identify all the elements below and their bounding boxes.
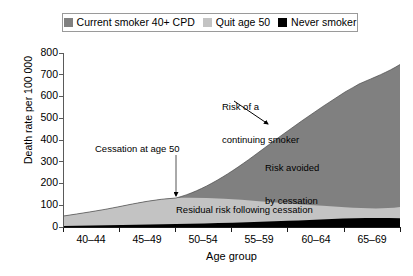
legend-label-current-smoker: Current smoker 40+ CPD [77,17,195,28]
legend-item-current-smoker: Current smoker 40+ CPD [64,17,195,28]
annotation-avoided-line-1: Risk avoided [265,162,319,173]
annotation-residual-risk-following-cessation: Residual risk following cessation [176,204,313,215]
y-axis-title: Death rate per 100 000 [22,30,34,190]
x-axis-label-65-69: 65–69 [344,233,400,245]
x-tick-6 [400,228,401,232]
x-axis-label-40-44: 40–44 [63,233,119,245]
x-axis-label-50-54: 50–54 [175,233,231,245]
y-axis-label-0: 0 [4,221,58,232]
x-axis-label-55-59: 55–59 [231,233,287,245]
y-axis-label-100: 100 [4,199,58,210]
x-axis-label-60-64: 60–64 [288,233,344,245]
x-tick-3 [231,228,232,232]
x-axis-title: Age group [63,250,400,262]
annotation-continuing-line-1: Risk of a [222,101,299,112]
legend-item-quit-age-50: Quit age 50 [203,17,270,28]
x-axis-label-45-49: 45–49 [119,233,175,245]
chart-container: Current smoker 40+ CPD Quit age 50 Never… [0,0,413,276]
annotation-cessation-at-age-50: Cessation at age 50 [95,143,180,154]
legend-swatch-never-smoker [278,18,287,27]
legend-swatch-current-smoker [64,18,73,27]
x-tick-5 [344,228,345,232]
chart-legend: Current smoker 40+ CPD Quit age 50 Never… [62,13,358,32]
x-tick-1 [119,228,120,232]
legend-item-never-smoker: Never smoker [278,17,356,28]
x-tick-2 [175,228,176,232]
legend-swatch-quit-age-50 [203,18,212,27]
legend-label-quit-age-50: Quit age 50 [216,17,270,28]
legend-label-never-smoker: Never smoker [291,17,356,28]
x-tick-0 [63,228,64,232]
x-tick-4 [287,228,288,232]
